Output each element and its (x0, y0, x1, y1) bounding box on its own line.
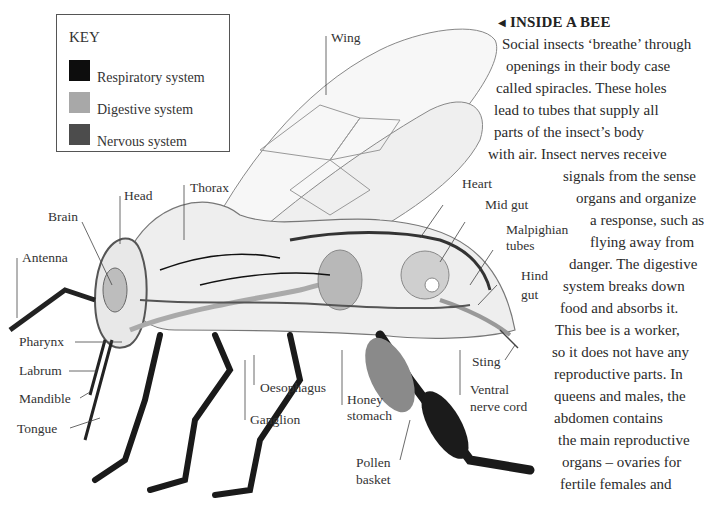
label-ventral-nerve-cord-line2: nerve cord (470, 399, 527, 414)
article-line: a response, such as (590, 209, 704, 231)
respiratory-swatch (69, 60, 90, 81)
label-antenna: Antenna (22, 250, 68, 265)
left-arrow-icon: ◀ (498, 17, 506, 28)
label-hind-gut-line2: gut (521, 287, 538, 302)
body-illustration (95, 202, 518, 348)
article-line: system breaks down (563, 275, 685, 297)
article-line: with air. Insect nerves receive (488, 143, 667, 165)
article-line: reproductive parts. In (554, 363, 683, 385)
article-line: This bee is a worker, (555, 319, 680, 341)
label-wing: Wing (331, 30, 360, 45)
article-line: organs and organize (576, 187, 696, 209)
article-line: lead to tubes that supply all (494, 99, 659, 121)
article-line: queens and males, the (554, 385, 686, 407)
article-line: organs – ovaries for (562, 451, 681, 473)
label-hind-gut-line1: Hind (521, 268, 548, 283)
label-pharynx: Pharynx (19, 334, 64, 349)
label-pollen-basket-line2: basket (356, 472, 391, 487)
article-line: called spiracles. These holes (496, 77, 667, 99)
label-malpighian-line1: Malpighian (506, 222, 568, 237)
key-label-digestive: Digestive system (97, 102, 193, 118)
label-mid-gut: Mid gut (485, 197, 528, 212)
article-line: flying away from (590, 231, 694, 253)
key-label-nervous: Nervous system (97, 134, 187, 150)
label-honey-stomach-line2: stomach (347, 408, 392, 423)
label-heart: Heart (462, 176, 492, 191)
article-line: fertile females and (560, 473, 672, 495)
label-labrum: Labrum (19, 363, 62, 378)
key-label-respiratory: Respiratory system (97, 70, 205, 86)
article-line: food and absorbs it. (560, 297, 678, 319)
article-line: Social insects ‘breathe’ through (502, 33, 691, 55)
article-title: ◀INSIDE A BEE (498, 14, 611, 31)
legend-key: KEY Respiratory system Digestive system … (56, 14, 230, 152)
nervous-swatch (69, 124, 90, 145)
inside-a-bee-diagram: KEY Respiratory system Digestive system … (0, 0, 724, 508)
article-line: so it does not have any (552, 341, 689, 363)
label-sting: Sting (472, 354, 501, 369)
label-ventral-nerve-cord-line1: Ventral (470, 382, 509, 397)
label-tongue: Tongue (17, 421, 57, 436)
article-line: signals from the sense (563, 165, 696, 187)
article-line: parts of the insect’s body (494, 121, 644, 143)
label-pollen-basket-line1: Pollen (356, 455, 391, 470)
digestive-swatch (69, 92, 90, 113)
article-line: openings in their body case (506, 55, 670, 77)
article-title-text: INSIDE A BEE (510, 14, 611, 30)
label-thorax: Thorax (190, 180, 229, 195)
article-line: abdomen contains (554, 407, 663, 429)
article-line: danger. The digestive (569, 253, 697, 275)
label-head: Head (124, 188, 152, 203)
label-brain: Brain (48, 209, 78, 224)
label-mandible: Mandible (19, 391, 71, 406)
key-title: KEY (69, 29, 100, 46)
mouthparts-illustration (85, 340, 112, 440)
label-malpighian-line2: tubes (506, 238, 535, 253)
antenna-illustration (10, 290, 95, 330)
label-honey-stomach-line1: Honey (347, 392, 383, 407)
label-oesophagus: Oesophagus (260, 380, 326, 395)
legs-illustration (95, 335, 530, 495)
label-ganglion: Ganglion (250, 412, 300, 427)
article-line: the main reproductive (558, 429, 690, 451)
